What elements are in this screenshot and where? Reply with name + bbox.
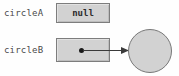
heap-object-circle (128, 29, 172, 73)
variable-label-circleA: circleA (4, 9, 43, 18)
object-reference-diagram: circleA null circleB (0, 0, 179, 76)
variable-slot-circleB (56, 38, 110, 62)
variable-slot-circleA: null (56, 3, 110, 23)
variable-label-circleB: circleB (4, 46, 43, 55)
variable-value-circleA: null (57, 9, 109, 18)
reference-dot-icon (79, 48, 84, 53)
